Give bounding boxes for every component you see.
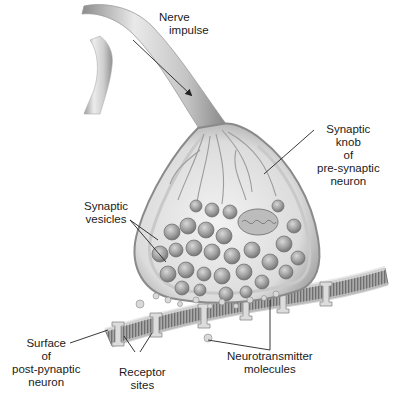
label-post-surface-line3: post-pynaptic xyxy=(12,363,80,376)
synapse-diagram: Nerve impulse Synaptic knob of pre-synap… xyxy=(0,0,395,404)
label-synaptic-knob-line3: of xyxy=(317,149,380,162)
label-synaptic-knob-line5: neuron xyxy=(317,175,380,188)
axon xyxy=(82,5,232,132)
label-synaptic-vesicles-line1: Synaptic xyxy=(84,200,128,213)
label-receptor-sites: Receptor sites xyxy=(119,366,166,392)
label-neurotransmitter-line2: molecules xyxy=(227,363,313,376)
label-post-surface-line1: Surface xyxy=(12,337,80,350)
label-neurotransmitter-line1: Neurotransmitter xyxy=(227,350,313,363)
label-synaptic-vesicles: Synaptic vesicles xyxy=(84,200,128,226)
label-nerve-impulse-line2: impulse xyxy=(159,24,209,37)
label-post-synaptic-surface: Surface of post-pynaptic neuron xyxy=(12,337,80,389)
label-synaptic-knob: Synaptic knob of pre-synaptic neuron xyxy=(317,123,380,188)
label-nerve-impulse: Nerve impulse xyxy=(159,11,209,37)
label-receptor-sites-line1: Receptor xyxy=(119,366,166,379)
label-synaptic-knob-line1: Synaptic xyxy=(317,123,380,136)
label-synaptic-knob-line2: knob xyxy=(317,136,380,149)
label-neurotransmitter-molecules: Neurotransmitter molecules xyxy=(227,350,313,376)
label-synaptic-knob-line4: pre-synaptic xyxy=(317,162,380,175)
label-post-surface-line2: of xyxy=(12,350,80,363)
label-receptor-sites-line2: sites xyxy=(119,379,166,392)
label-nerve-impulse-line1: Nerve xyxy=(159,11,209,24)
label-synaptic-vesicles-line2: vesicles xyxy=(84,213,128,226)
label-post-surface-line4: neuron xyxy=(12,376,80,389)
